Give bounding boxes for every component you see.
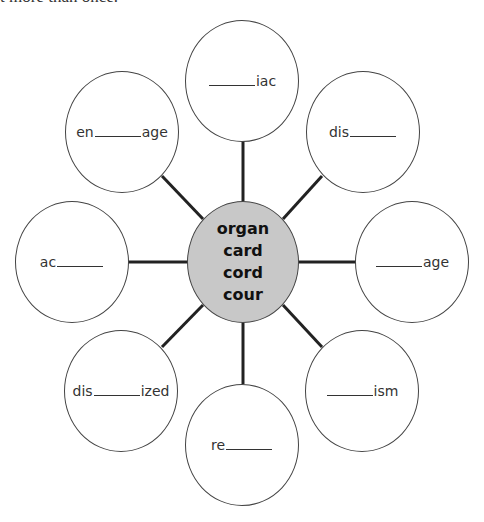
root-organ: organ [217, 218, 270, 240]
node-right: age [355, 201, 469, 323]
root-card: card [223, 240, 263, 262]
blank-line[interactable] [350, 135, 396, 137]
connector-bottom-right [283, 305, 322, 347]
node-bottom-left: disized [64, 330, 178, 452]
blank-line[interactable] [95, 135, 141, 137]
node-top-left: enage [65, 71, 179, 193]
blank-line[interactable] [57, 265, 103, 267]
blank-line[interactable] [94, 394, 140, 396]
node-bottom: re [185, 384, 299, 506]
blank-line[interactable] [376, 265, 422, 267]
blank-line[interactable] [209, 84, 255, 86]
node-top-right: dis [306, 71, 420, 193]
node-bottom-right: ism [305, 330, 419, 452]
node-left: ac [15, 201, 129, 323]
hub-circle: organ card cord cour [187, 201, 299, 323]
connector-top-right [283, 176, 322, 219]
node-top: iac [185, 20, 299, 142]
root-cour: cour [223, 284, 263, 306]
blank-line[interactable] [327, 394, 373, 396]
blank-line[interactable] [226, 448, 272, 450]
root-cord: cord [223, 262, 263, 284]
connector-bottom-left [162, 305, 203, 347]
connector-top-left [162, 176, 203, 219]
